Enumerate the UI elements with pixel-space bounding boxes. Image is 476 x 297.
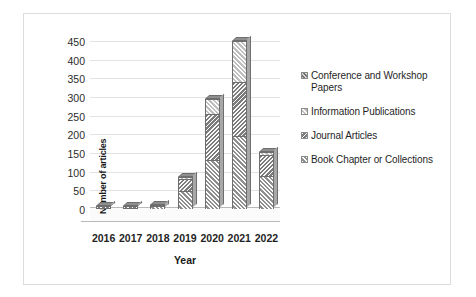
gridline — [90, 153, 280, 154]
bar-segment[interactable] — [259, 155, 274, 177]
y-axis-tick-label: 300 — [49, 92, 85, 104]
x-axis-title: Year — [90, 254, 280, 266]
bar-side-face — [193, 172, 197, 207]
legend-swatch-book-icon — [301, 156, 308, 163]
bar-segment[interactable] — [205, 99, 220, 114]
x-axis-tick-label: 2018 — [143, 232, 173, 244]
bar-segment[interactable] — [178, 179, 193, 191]
bar-side-face — [247, 36, 251, 207]
bar-segment[interactable] — [232, 82, 247, 136]
gridline — [90, 41, 280, 42]
legend-item[interactable]: Book Chapter or Collections — [301, 154, 451, 166]
y-axis-tick-label: 0 — [49, 204, 85, 216]
legend-item-label: Information Publications — [311, 106, 415, 118]
legend-item[interactable]: Journal Articles — [301, 130, 451, 142]
y-axis-tick-label: 150 — [49, 148, 85, 160]
bar-segment[interactable] — [205, 114, 220, 161]
y-axis-tick-label: 250 — [49, 111, 85, 123]
legend-item-label: Journal Articles — [311, 130, 377, 142]
x-axis-tick-label: 2019 — [170, 232, 200, 244]
bar-segment[interactable] — [123, 208, 138, 210]
y-axis-tick-label: 50 — [49, 185, 85, 197]
bar-side-face — [220, 94, 224, 207]
chart-container: 050100150200250300350400450 Number of ar… — [23, 13, 451, 285]
legend-swatch-conference-icon — [301, 72, 308, 79]
bar-segment[interactable] — [259, 176, 274, 209]
x-axis-tick-label: 2017 — [116, 232, 146, 244]
legend-swatch-information-icon — [301, 108, 308, 115]
bar-segment[interactable] — [232, 136, 247, 209]
legend-item-label: Conference and Workshop Papers — [311, 70, 451, 94]
bar-column[interactable] — [123, 206, 138, 209]
bar-segment[interactable] — [205, 160, 220, 209]
bar-column[interactable] — [205, 99, 220, 209]
y-axis-tick-label: 100 — [49, 167, 85, 179]
gridline — [90, 60, 280, 61]
bar-segment[interactable] — [178, 191, 193, 209]
y-axis-tick-label: 450 — [49, 36, 85, 48]
y-axis-tick-label: 400 — [49, 55, 85, 67]
legend-swatch-journal-icon — [301, 132, 308, 139]
x-axis-tick-label: 2022 — [251, 232, 281, 244]
bar-column[interactable] — [259, 152, 274, 209]
gridline — [90, 78, 280, 79]
y-axis-tick-label: 200 — [49, 129, 85, 141]
bar-segment[interactable] — [232, 41, 247, 82]
x-axis-tick-label: 2016 — [89, 232, 119, 244]
bar-column[interactable] — [96, 206, 111, 209]
legend-item-label: Book Chapter or Collections — [311, 154, 433, 166]
bar-column[interactable] — [178, 177, 193, 209]
bar-side-face — [274, 147, 278, 207]
bar-segment[interactable] — [150, 206, 165, 209]
legend-item[interactable]: Information Publications — [301, 106, 451, 118]
x-axis-tick-label: 2020 — [197, 232, 227, 244]
bar-column[interactable] — [232, 41, 247, 209]
plot-area: 050100150200250300350400450 Number of ar… — [90, 36, 280, 221]
chart-legend: Conference and Workshop PapersInformatio… — [301, 70, 451, 178]
chart-floor — [90, 207, 280, 222]
legend-item[interactable]: Conference and Workshop Papers — [301, 70, 451, 94]
bar-column[interactable] — [150, 205, 165, 209]
bar-segment[interactable] — [96, 208, 111, 210]
gridline — [90, 134, 280, 135]
x-axis-tick-label: 2021 — [224, 232, 254, 244]
gridline — [90, 116, 280, 117]
gridline — [90, 97, 280, 98]
y-axis-tick-label: 350 — [49, 73, 85, 85]
